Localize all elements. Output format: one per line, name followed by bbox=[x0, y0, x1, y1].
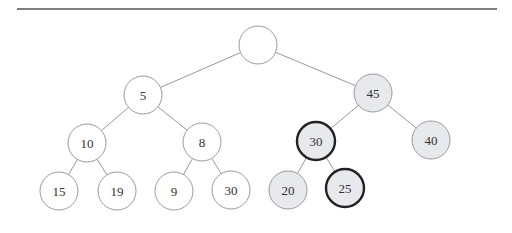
tree-node: 9 bbox=[155, 172, 193, 210]
node-label: 5 bbox=[140, 88, 147, 103]
node-label: 45 bbox=[367, 86, 380, 101]
tree-node: 15 bbox=[40, 172, 78, 210]
tree-edge bbox=[183, 158, 192, 174]
tree-edge bbox=[276, 52, 356, 85]
tree-edge bbox=[388, 105, 416, 128]
tree-node: 5 bbox=[124, 76, 162, 114]
tree-node: 19 bbox=[98, 172, 136, 210]
node-label: 8 bbox=[199, 135, 206, 150]
tree-node: 8 bbox=[183, 123, 221, 161]
tree-edge bbox=[326, 157, 335, 172]
tree-edge bbox=[297, 157, 306, 173]
node-label: 19 bbox=[111, 184, 124, 199]
node-label: 10 bbox=[81, 136, 94, 151]
tree-node: 25 bbox=[326, 169, 364, 207]
node-label: 30 bbox=[310, 134, 323, 149]
node-label: 30 bbox=[225, 183, 238, 198]
tree-edge bbox=[212, 158, 221, 173]
node-label: 40 bbox=[425, 133, 438, 148]
tree-edge bbox=[158, 107, 187, 130]
heap-tree-diagram: 545108304015199302025 bbox=[0, 0, 512, 233]
tree-node: 30 bbox=[297, 122, 335, 160]
tree-node bbox=[239, 26, 277, 64]
tree-node: 45 bbox=[354, 74, 392, 112]
tree-edge bbox=[101, 107, 128, 130]
tree-edge bbox=[160, 53, 240, 88]
node-circle bbox=[239, 26, 277, 64]
node-label: 20 bbox=[282, 183, 295, 198]
tree-edges bbox=[69, 52, 417, 175]
tree-node: 30 bbox=[212, 171, 250, 209]
tree-edge bbox=[331, 105, 359, 129]
tree-nodes: 545108304015199302025 bbox=[40, 26, 450, 210]
node-label: 15 bbox=[53, 184, 66, 199]
tree-edge bbox=[97, 159, 107, 175]
tree-node: 10 bbox=[68, 124, 106, 162]
tree-node: 20 bbox=[269, 171, 307, 209]
node-label: 25 bbox=[339, 181, 352, 196]
node-label: 9 bbox=[171, 184, 178, 199]
tree-node: 40 bbox=[412, 121, 450, 159]
tree-edge bbox=[69, 159, 78, 174]
